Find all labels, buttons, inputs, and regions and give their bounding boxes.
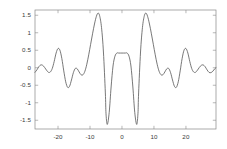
plot-frame <box>35 10 216 129</box>
x-tick-label: -10 <box>78 133 102 140</box>
x-tick-label: 0 <box>110 133 134 140</box>
y-tick-label: 0 <box>8 64 31 71</box>
tick-marks <box>35 10 216 129</box>
x-tick-label: 20 <box>174 133 198 140</box>
y-tick-label: -1.5 <box>8 116 31 123</box>
x-tick-label: -20 <box>46 133 70 140</box>
y-tick-label: 0.5 <box>8 46 31 53</box>
plot-canvas <box>0 0 227 149</box>
y-tick-label: 1 <box>8 29 31 36</box>
x-tick-label: 10 <box>142 133 166 140</box>
chart-figure: -1.5-1-0.500.511.5 -20-1001020 <box>0 0 227 149</box>
data-series-group <box>35 13 216 124</box>
frame-rect <box>35 10 216 129</box>
y-tick-label: -1 <box>8 99 31 106</box>
series-line-waveform <box>35 13 216 124</box>
y-tick-label: -0.5 <box>8 81 31 88</box>
y-tick-label: 1.5 <box>8 11 31 18</box>
